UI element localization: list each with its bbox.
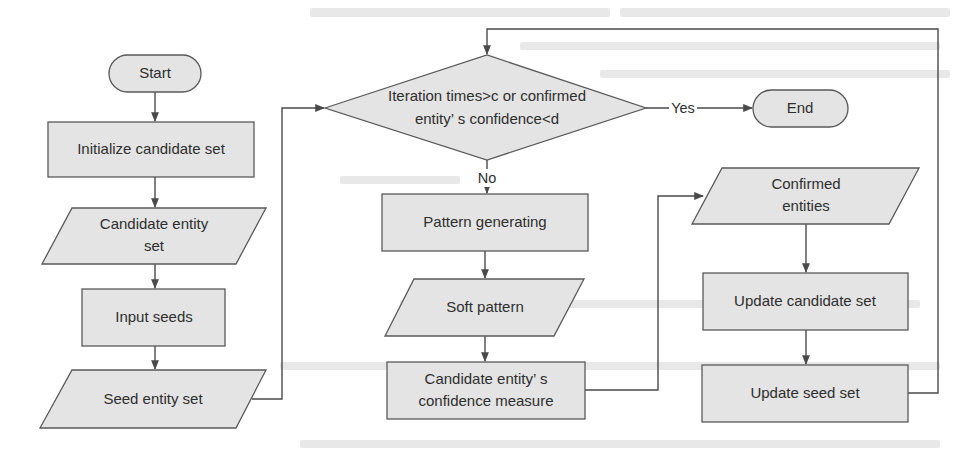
no-edge-label: No [478, 170, 497, 186]
node-decision[interactable]: Iteration times>c or confirmed entity’ s… [325, 55, 646, 160]
confidence-measure-label-line2: confidence measure [418, 392, 553, 409]
node-input-seeds[interactable]: Input seeds [82, 289, 225, 346]
input-seeds-label: Input seeds [115, 308, 193, 325]
flowchart-svg: Start Initialize candidate set Candidate… [0, 0, 974, 454]
node-end[interactable]: End [753, 90, 848, 127]
confirmed-entities-label-line2: entities [782, 197, 830, 214]
update-candidate-set-label: Update candidate set [734, 292, 877, 309]
edge-confidence-to-confirmed [585, 196, 703, 390]
yes-edge-label: Yes [671, 100, 695, 116]
confirmed-entities-label-line1: Confirmed [771, 175, 840, 192]
node-soft-pattern[interactable]: Soft pattern [385, 279, 584, 336]
node-update-seed-set[interactable]: Update seed set [702, 365, 908, 422]
soft-pattern-label: Soft pattern [446, 298, 524, 315]
edge-label-yes-group: Yes [669, 99, 697, 117]
node-confidence-measure[interactable]: Candidate entity’ s confidence measure [387, 362, 585, 419]
node-start[interactable]: Start [109, 55, 201, 92]
update-seed-set-label: Update seed set [750, 384, 860, 401]
seed-entity-set-label: Seed entity set [103, 390, 203, 407]
node-pattern-generating[interactable]: Pattern generating [382, 194, 588, 251]
edge-label-no-group: No [474, 169, 500, 187]
node-initialize-candidate-set[interactable]: Initialize candidate set [48, 122, 254, 177]
candidate-entity-set-label-line1: Candidate entity [100, 215, 209, 232]
candidate-entity-set-label-line2: set [144, 237, 165, 254]
decision-label-line1: Iteration times>c or confirmed [388, 87, 586, 104]
node-confirmed-entities[interactable]: Confirmed entities [692, 168, 919, 224]
node-update-candidate-set[interactable]: Update candidate set [703, 273, 908, 330]
initialize-candidate-set-label: Initialize candidate set [77, 140, 225, 157]
node-seed-entity-set[interactable]: Seed entity set [40, 370, 266, 428]
node-candidate-entity-set[interactable]: Candidate entity set [42, 208, 266, 264]
edge-seed-set-to-decision [252, 108, 324, 399]
decision-label-line2: entity’ s confidence<d [415, 110, 559, 127]
flowchart-canvas: Start Initialize candidate set Candidate… [0, 0, 974, 454]
decision-diamond-shape [325, 55, 646, 160]
start-label: Start [139, 64, 172, 81]
end-label: End [787, 99, 814, 116]
pattern-generating-label: Pattern generating [423, 213, 546, 230]
confidence-measure-label-line1: Candidate entity’ s [425, 370, 548, 387]
